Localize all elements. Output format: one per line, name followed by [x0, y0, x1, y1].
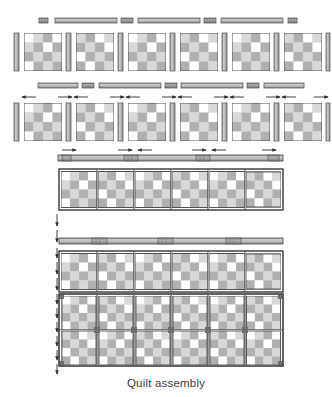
cornerstone-square — [39, 18, 48, 23]
quilt-block — [180, 33, 218, 71]
cornerstone-square — [121, 18, 133, 23]
quilt-block — [210, 296, 244, 330]
cornerstone-square — [226, 238, 241, 244]
figure-caption: Quilt assembly — [0, 377, 332, 389]
quilt-block — [247, 331, 281, 365]
assembled-block-row-two — [59, 251, 283, 292]
quilt-block — [210, 331, 244, 365]
quilt-block — [128, 33, 166, 71]
cornerstone-square — [62, 155, 71, 161]
step-second-sashing-row — [38, 83, 304, 88]
quilt-block — [284, 103, 322, 141]
quilt-block — [135, 172, 171, 208]
vertical-sashing-strip — [118, 103, 123, 141]
quilt-block — [76, 33, 114, 71]
quilt-block — [61, 172, 97, 208]
vertical-sashing-strip — [66, 103, 71, 141]
full-quilt-top — [59, 294, 283, 366]
quilt-block — [173, 296, 207, 330]
quilt-block — [62, 331, 96, 365]
quilt-block — [209, 254, 245, 290]
vertical-sashing-strip — [118, 33, 123, 71]
quilt-block — [247, 296, 281, 330]
quilt-block — [135, 254, 171, 290]
quilt-block — [172, 172, 208, 208]
cornerstone-square — [247, 83, 259, 88]
vertical-sashing-strip — [14, 33, 19, 71]
sashing-strip — [181, 83, 243, 88]
quilt-block — [173, 331, 207, 365]
quilt-block — [24, 33, 62, 71]
quilt-block — [232, 33, 270, 71]
quilt-block — [136, 296, 170, 330]
cornerstone-square — [268, 155, 279, 161]
quilt-block — [232, 103, 270, 141]
quilt-block — [98, 254, 134, 290]
cornerstone-square — [92, 238, 107, 244]
quilt-block — [24, 103, 62, 141]
cornerstone-square — [165, 83, 177, 88]
sashing-strip — [221, 18, 283, 23]
quilt-block — [246, 254, 281, 289]
vertical-sashing-strip — [274, 103, 279, 141]
vertical-sashing-strip — [170, 103, 175, 141]
quilt-block — [99, 296, 133, 330]
pieced-sashing-strip-row-two — [59, 238, 283, 244]
vertical-sashing-strip — [274, 33, 279, 71]
quilt-block — [128, 103, 166, 141]
step-top-sashing-row — [39, 18, 297, 23]
quilt-block — [284, 33, 322, 71]
cornerstone-square — [124, 155, 138, 161]
quilt-block — [136, 331, 170, 365]
sashing-strip — [55, 18, 117, 23]
vertical-sashing-strip — [222, 103, 227, 141]
quilt-block — [99, 331, 133, 365]
cornerstone-square — [204, 18, 216, 23]
vertical-sashing-strip — [14, 103, 19, 141]
vertical-sashing-strip — [326, 103, 330, 141]
vertical-sashing-strip — [326, 33, 330, 71]
cornerstone-square — [196, 155, 210, 161]
vertical-sashing-strip — [170, 33, 175, 71]
quilt-block — [246, 172, 281, 207]
quilt-assembly-figure: Quilt assembly — [0, 0, 332, 397]
sashing-strip — [99, 83, 161, 88]
cornerstone-square — [288, 18, 297, 23]
quilt-block — [76, 103, 114, 141]
quilt-block — [172, 254, 208, 290]
quilt-block — [61, 254, 97, 290]
cornerstone-square — [82, 83, 94, 88]
quilt-block — [62, 296, 96, 330]
quilt-diagram-svg — [0, 0, 332, 397]
quilt-block — [209, 172, 245, 208]
sashing-strip — [38, 83, 78, 88]
sashing-strip — [264, 83, 304, 88]
sashing-strip — [138, 18, 200, 23]
vertical-sashing-strip — [66, 33, 71, 71]
quilt-block — [180, 103, 218, 141]
pieced-sashing-strip-row-one — [58, 155, 283, 161]
quilt-block — [98, 172, 134, 208]
vertical-sashing-strip — [222, 33, 227, 71]
assembled-block-row-one — [59, 169, 283, 210]
cornerstone-square — [158, 238, 173, 244]
